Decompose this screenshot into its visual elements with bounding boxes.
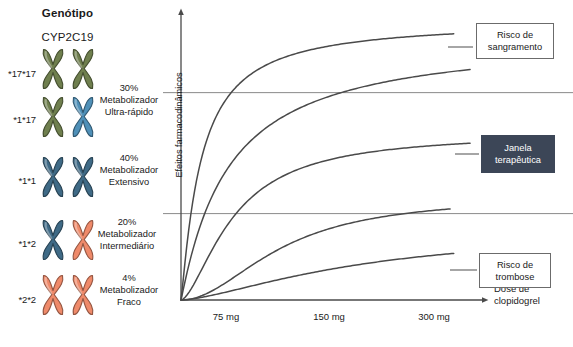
phenotype-percent: 40% [88, 152, 170, 164]
callout-leader-lines [448, 47, 479, 270]
dose-response-curves [181, 34, 470, 300]
callout-line1: Risco de [497, 29, 533, 41]
x-tick-75mg: 75 mg [203, 311, 249, 322]
phenotype-ultra-rapido: 30% Metabolizador Ultra-rápido [88, 82, 170, 119]
phenotype-line3: Extensivo [88, 176, 170, 188]
phenotype-percent: 4% [88, 272, 170, 284]
x-tick-150mg: 150 mg [306, 311, 352, 322]
callout-line2: sangramento [488, 41, 542, 53]
phenotype-line2: Metabolizador [88, 284, 170, 296]
phenotype-intermediario: 20% Metabolizador Intermediário [86, 216, 168, 253]
genotype-label-1-1: *1*1 [0, 175, 36, 186]
phenotype-percent: 20% [86, 216, 168, 228]
genotype-label-1-17: *1*17 [0, 114, 36, 125]
callout-line2: terapêutica [495, 154, 541, 166]
genotype-label-17-17: *17*17 [0, 68, 36, 79]
dose-response-curve [181, 143, 470, 300]
phenotype-line2: Metabolizador [86, 228, 168, 240]
phenotype-line3: Fraco [88, 296, 170, 308]
dose-response-curve [181, 34, 454, 300]
phenotype-percent: 30% [88, 82, 170, 94]
phenotype-line3: Intermediário [86, 240, 168, 252]
callout-line1: Janela [504, 142, 531, 154]
phenotype-line2: Metabolizador [88, 94, 170, 106]
callout-therapeutic-window: Janela terapêutica [481, 135, 555, 173]
genotype-label-1-2: *1*2 [0, 238, 36, 249]
x-tick-300mg: 300 mg [411, 311, 457, 322]
pharmacogenomics-figure: Genótipo CYP2C19 *17*17 *1*17 *1*1 *1*2 … [0, 0, 573, 347]
axes [181, 12, 485, 300]
phenotype-extensivo: 40% Metabolizador Extensivo [88, 152, 170, 189]
dose-response-curve [181, 209, 450, 300]
panel-subtitle-gene: CYP2C19 [0, 31, 135, 43]
phenotype-line3: Ultra-rápido [88, 106, 170, 118]
dose-response-chart: Efeitos farmacodinâmicos Dose declopidog… [163, 0, 573, 347]
y-axis-label: Efeitos farmacodinâmicos [174, 65, 184, 185]
callout-bleeding-risk: Risco de sangramento [476, 23, 554, 59]
callout-thrombosis-risk: Risco de trombose [479, 253, 551, 288]
genotype-label-2-2: *2*2 [0, 294, 36, 305]
callout-line1: Risco de [497, 259, 533, 271]
phenotype-line2: Metabolizador [88, 164, 170, 176]
dose-response-curve [181, 253, 454, 300]
phenotype-fraco: 4% Metabolizador Fraco [88, 272, 170, 309]
genotype-legend-panel: Genótipo CYP2C19 *17*17 *1*17 *1*1 *1*2 … [0, 0, 170, 347]
dose-response-curve [181, 69, 470, 300]
panel-title: Genótipo [0, 7, 135, 19]
callout-line2: trombose [496, 271, 535, 283]
